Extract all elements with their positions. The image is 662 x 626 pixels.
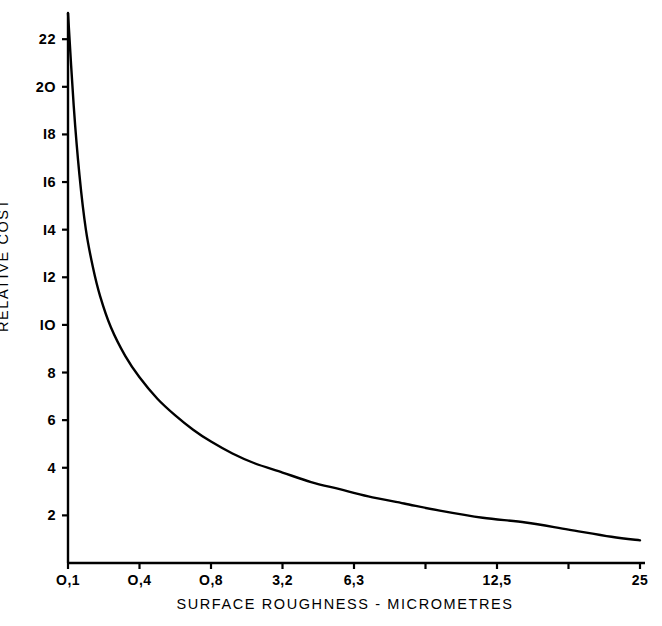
y-tick-label: I4 [26,222,56,238]
x-tick-label: 6,3 [344,572,365,588]
y-tick-label: I2 [26,269,56,285]
x-axis-title: SURFACE ROUGHNESS - MICROMETRES [0,596,662,612]
y-tick-label: 2 [26,507,56,523]
x-axis-title-text: SURFACE ROUGHNESS - MICROMETRES [176,596,513,612]
y-tick-label: I6 [26,174,56,190]
y-tick-label: I8 [26,126,56,142]
plot-area [0,0,662,626]
y-tick-label: 8 [26,365,56,381]
x-tick-label: 3,2 [272,572,293,588]
x-tick-label: O,1 [56,572,80,588]
y-tick-label: IO [26,317,56,333]
chart-figure: RELATIVE COST SURFACE ROUGHNESS - MICROM… [0,0,662,626]
y-tick-label: 2O [26,79,56,95]
y-tick-label: 22 [26,31,56,47]
x-tick-label: O,4 [128,572,152,588]
y-axis-title-text: RELATIVE COST [0,198,11,332]
x-tick-label: O,8 [199,572,223,588]
x-tick-label: 25 [632,572,648,588]
data-curve-relative-cost [68,13,640,540]
x-tick-label: 12,5 [483,572,512,588]
y-tick-label: 4 [26,460,56,476]
y-tick-label: 6 [26,412,56,428]
